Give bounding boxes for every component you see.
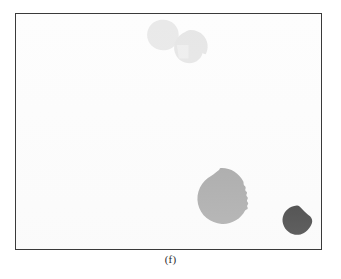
region-blob-1 — [146, 19, 180, 53]
region-blob-2 — [172, 29, 209, 66]
region-blob-4 — [280, 204, 314, 238]
figure-panel: (f) — [0, 0, 341, 279]
plot-frame — [15, 13, 322, 250]
figure-caption: (f) — [0, 253, 341, 265]
region-blob-3 — [190, 167, 252, 227]
